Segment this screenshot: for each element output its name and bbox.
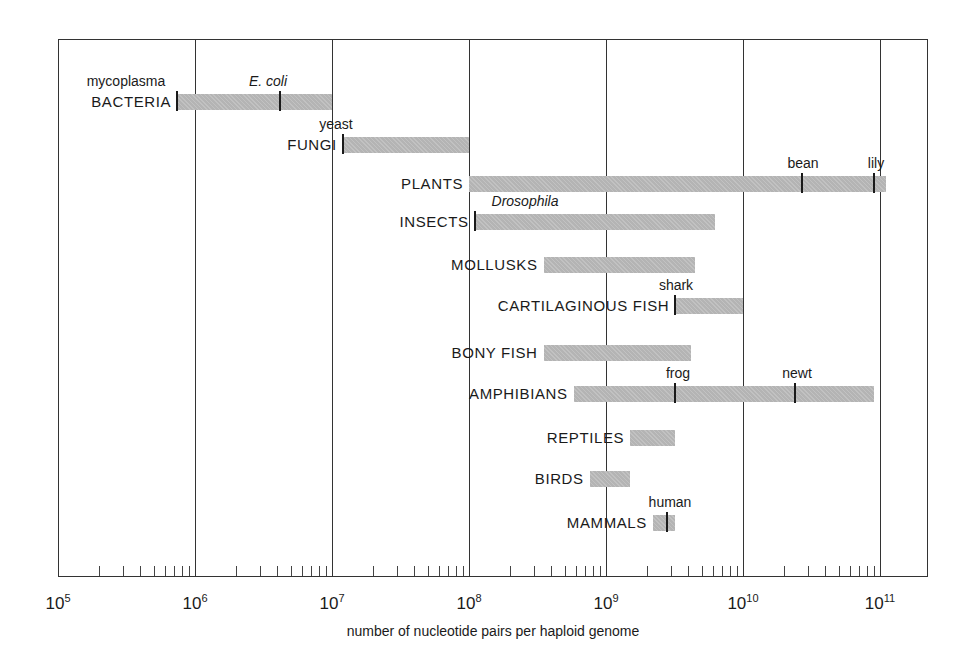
minor-tick bbox=[277, 566, 278, 576]
category-label: CARTILAGINOUS FISH bbox=[498, 298, 669, 314]
minor-tick bbox=[593, 566, 594, 576]
minor-tick bbox=[291, 566, 292, 576]
minor-tick bbox=[439, 566, 440, 576]
minor-tick bbox=[397, 566, 398, 576]
category-label: FUNGI bbox=[287, 137, 337, 153]
category-label: REPTILES bbox=[547, 430, 624, 446]
minor-tick bbox=[867, 566, 868, 576]
minor-tick bbox=[428, 566, 429, 576]
minor-tick bbox=[448, 566, 449, 576]
genome-size-chart: BACTERIAmycoplasmaE. coliFUNGIyeastPLANT… bbox=[0, 0, 972, 650]
category-label: MOLLUSKS bbox=[451, 257, 538, 273]
range-bar-mollusks bbox=[544, 257, 696, 273]
minor-tick bbox=[319, 566, 320, 576]
minor-tick bbox=[174, 566, 175, 576]
species-label: mycoplasma bbox=[87, 74, 166, 88]
species-label: shark bbox=[659, 278, 693, 292]
minor-tick bbox=[839, 566, 840, 576]
minor-tick bbox=[165, 566, 166, 576]
species-label: newt bbox=[782, 366, 812, 380]
species-marker bbox=[342, 134, 344, 154]
minor-tick bbox=[576, 566, 577, 576]
category-label: BACTERIA bbox=[91, 94, 171, 110]
range-bar-bacteria bbox=[177, 94, 332, 110]
minor-tick bbox=[585, 566, 586, 576]
species-label: bean bbox=[787, 156, 818, 170]
minor-tick bbox=[123, 566, 124, 576]
x-axis-label: number of nucleotide pairs per haploid g… bbox=[347, 623, 640, 639]
species-marker bbox=[474, 211, 476, 231]
range-bar-cartilaginous-fish bbox=[675, 298, 743, 314]
range-bar-insects bbox=[475, 214, 716, 230]
category-label: BIRDS bbox=[535, 471, 584, 487]
minor-tick bbox=[784, 566, 785, 576]
species-marker bbox=[674, 383, 676, 403]
range-bar-fungi bbox=[343, 137, 469, 153]
minor-tick bbox=[647, 566, 648, 576]
decade-gridline bbox=[880, 39, 881, 576]
range-bar-plants bbox=[469, 176, 886, 192]
x-tick-label: 1011 bbox=[865, 592, 895, 614]
x-tick-label: 106 bbox=[182, 592, 207, 614]
x-tick-label: 108 bbox=[456, 592, 481, 614]
minor-tick bbox=[808, 566, 809, 576]
species-label: lily bbox=[868, 156, 884, 170]
minor-tick bbox=[260, 566, 261, 576]
species-label: Drosophila bbox=[492, 194, 559, 208]
species-marker bbox=[176, 91, 178, 111]
minor-tick bbox=[189, 566, 190, 576]
minor-tick bbox=[825, 566, 826, 576]
plot-frame bbox=[58, 39, 928, 577]
category-label: MAMMALS bbox=[567, 515, 647, 531]
minor-tick bbox=[688, 566, 689, 576]
minor-tick bbox=[600, 566, 601, 576]
decade-gridline bbox=[195, 39, 196, 576]
minor-tick bbox=[182, 566, 183, 576]
range-bar-mammals bbox=[653, 515, 675, 531]
species-marker bbox=[794, 383, 796, 403]
range-bar-amphibians bbox=[574, 386, 875, 402]
category-label: INSECTS bbox=[399, 214, 468, 230]
species-label: frog bbox=[666, 366, 690, 380]
minor-tick bbox=[140, 566, 141, 576]
minor-tick bbox=[737, 566, 738, 576]
minor-tick bbox=[565, 566, 566, 576]
x-tick-label: 1010 bbox=[727, 592, 758, 614]
minor-tick bbox=[510, 566, 511, 576]
minor-tick bbox=[414, 566, 415, 576]
range-bar-birds bbox=[590, 471, 630, 487]
species-label: human bbox=[649, 495, 692, 509]
minor-tick bbox=[463, 566, 464, 576]
minor-tick bbox=[730, 566, 731, 576]
minor-tick bbox=[302, 566, 303, 576]
decade-gridline bbox=[469, 39, 470, 576]
minor-tick bbox=[859, 566, 860, 576]
minor-tick bbox=[551, 566, 552, 576]
minor-tick bbox=[534, 566, 535, 576]
minor-tick bbox=[713, 566, 714, 576]
x-tick-label: 105 bbox=[45, 592, 70, 614]
species-marker bbox=[674, 295, 676, 315]
x-tick-label: 109 bbox=[593, 592, 618, 614]
minor-tick bbox=[722, 566, 723, 576]
minor-tick bbox=[236, 566, 237, 576]
species-marker bbox=[279, 91, 281, 111]
minor-tick bbox=[874, 566, 875, 576]
species-label: yeast bbox=[319, 117, 352, 131]
species-marker bbox=[801, 173, 803, 193]
minor-tick bbox=[311, 566, 312, 576]
minor-tick bbox=[456, 566, 457, 576]
minor-tick bbox=[702, 566, 703, 576]
x-tick-label: 107 bbox=[319, 592, 344, 614]
minor-tick bbox=[326, 566, 327, 576]
category-label: PLANTS bbox=[401, 176, 463, 192]
species-marker bbox=[873, 173, 875, 193]
minor-tick bbox=[373, 566, 374, 576]
category-label: AMPHIBIANS bbox=[469, 386, 568, 402]
species-label: E. coli bbox=[249, 74, 287, 88]
minor-tick bbox=[154, 566, 155, 576]
minor-tick bbox=[850, 566, 851, 576]
category-label: BONY FISH bbox=[452, 345, 538, 361]
range-bar-bony-fish bbox=[544, 345, 692, 361]
range-bar-reptiles bbox=[630, 430, 675, 446]
